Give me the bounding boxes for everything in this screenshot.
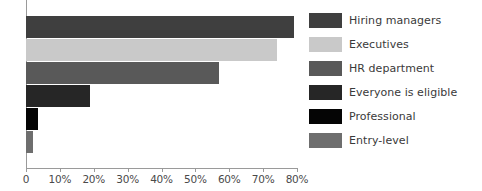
legend-label: HR department bbox=[349, 61, 434, 76]
legend-swatch-icon bbox=[309, 133, 342, 148]
bars-layer bbox=[26, 0, 305, 168]
x-axis-tick-label: 20% bbox=[82, 173, 105, 185]
bar bbox=[26, 62, 219, 84]
bar-chart: 010%20%30%40%50%60%70%80% Hiring manager… bbox=[0, 0, 482, 191]
x-axis-tick-label: 80% bbox=[286, 173, 309, 185]
x-axis-tick-mark bbox=[94, 168, 95, 172]
legend-label: Hiring managers bbox=[349, 13, 441, 28]
legend-item[interactable]: HR department bbox=[309, 61, 482, 76]
legend-item[interactable]: Hiring managers bbox=[309, 13, 482, 28]
legend-swatch-icon bbox=[309, 37, 342, 52]
bar bbox=[26, 39, 277, 61]
plot-area: 010%20%30%40%50%60%70%80% bbox=[0, 0, 305, 191]
bar bbox=[26, 85, 90, 107]
legend-item[interactable]: Everyone is eligible bbox=[309, 85, 482, 100]
x-axis-tick-mark bbox=[195, 168, 196, 172]
x-axis-tick-mark bbox=[26, 168, 27, 172]
x-axis-tick-mark bbox=[128, 168, 129, 172]
legend-label: Entry-level bbox=[349, 133, 409, 148]
legend-label: Executives bbox=[349, 37, 409, 52]
legend-swatch-icon bbox=[309, 61, 342, 76]
x-axis-tick-mark bbox=[60, 168, 61, 172]
x-axis-tick-label: 40% bbox=[150, 173, 173, 185]
x-axis-tick-label: 50% bbox=[184, 173, 207, 185]
x-axis-tick-label: 0 bbox=[23, 173, 29, 185]
x-axis-tick-mark bbox=[162, 168, 163, 172]
legend-item[interactable]: Professional bbox=[309, 109, 482, 124]
legend-item[interactable]: Entry-level bbox=[309, 133, 482, 148]
x-axis-tick-label: 70% bbox=[252, 173, 275, 185]
legend-swatch-icon bbox=[309, 85, 342, 100]
legend-swatch-icon bbox=[309, 13, 342, 28]
x-axis-tick-mark bbox=[263, 168, 264, 172]
x-axis-tick-mark bbox=[297, 168, 298, 172]
bar bbox=[26, 16, 294, 38]
x-axis-tick-mark bbox=[229, 168, 230, 172]
legend-item[interactable]: Executives bbox=[309, 37, 482, 52]
x-axis-tick-label: 60% bbox=[218, 173, 241, 185]
legend-swatch-icon bbox=[309, 109, 342, 124]
bar bbox=[26, 108, 38, 130]
legend-label: Professional bbox=[349, 109, 416, 124]
legend-label: Everyone is eligible bbox=[349, 85, 457, 100]
x-axis-tick-label: 10% bbox=[49, 173, 72, 185]
bar bbox=[26, 131, 33, 153]
x-axis-tick-label: 30% bbox=[116, 173, 139, 185]
